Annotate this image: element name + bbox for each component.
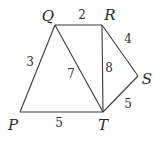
- vertex-label-p: P: [7, 116, 19, 134]
- edge-st: [103, 76, 138, 112]
- edges-group: [20, 25, 138, 112]
- vertex-label-t: T: [98, 116, 109, 134]
- edge-weight-qt: 7: [67, 67, 75, 81]
- edge-qt: [55, 25, 103, 112]
- edge-weight-pq: 3: [26, 55, 34, 69]
- vertex-label-s: S: [142, 70, 152, 88]
- edge-weight-pt: 5: [55, 116, 63, 130]
- vertex-label-r: R: [103, 6, 115, 24]
- edge-weight-rt: 8: [105, 61, 113, 75]
- edge-rt: [102, 25, 103, 112]
- edge-weight-rs: 4: [124, 32, 132, 46]
- edge-weight-qr: 2: [78, 8, 86, 22]
- edge-weight-st: 5: [124, 97, 132, 111]
- graph-diagram: 3247855 PQRST: [0, 0, 165, 142]
- vertex-label-q: Q: [42, 7, 54, 25]
